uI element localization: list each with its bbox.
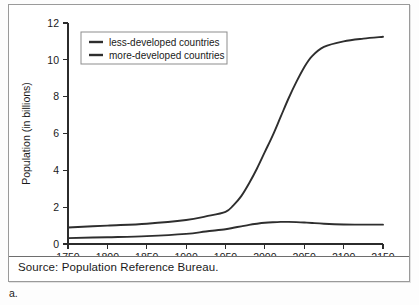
figure-letter-label: a. bbox=[9, 287, 18, 299]
y-axis-tick-label: 6 bbox=[53, 127, 59, 139]
y-axis-title: Population (in billions) bbox=[20, 82, 32, 185]
y-axis-tick-label: 8 bbox=[53, 90, 59, 102]
y-axis-title-text: Population (in billions) bbox=[20, 82, 32, 185]
population-projection-line-chart: 024681012 175018001850190019502000205021… bbox=[8, 4, 410, 256]
figure-container: 024681012 175018001850190019502000205021… bbox=[0, 0, 419, 305]
series-line-less-developed bbox=[68, 37, 383, 228]
legend-label-more-developed: more-developed countries bbox=[109, 50, 225, 61]
source-strip: Source: Population Reference Bureau. bbox=[9, 256, 409, 281]
chart-series-group bbox=[68, 37, 383, 238]
source-note: Source: Population Reference Bureau. bbox=[18, 261, 219, 273]
y-axis-tick-label: 2 bbox=[53, 201, 59, 213]
y-axis-tick-label: 12 bbox=[47, 17, 59, 29]
y-axis: 024681012 bbox=[47, 17, 68, 250]
y-axis-tick-label: 0 bbox=[53, 238, 59, 250]
chart-plot-area: 024681012 175018001850190019502000205021… bbox=[8, 4, 410, 256]
y-axis-tick-label: 10 bbox=[47, 54, 59, 66]
x-axis: 175018001850190019502000205021002150 bbox=[56, 244, 395, 256]
legend-label-less-developed: less-developed countries bbox=[109, 37, 220, 48]
y-axis-tick-label: 4 bbox=[53, 164, 59, 176]
chart-legend: less-developed countriesmore-developed c… bbox=[81, 32, 227, 64]
